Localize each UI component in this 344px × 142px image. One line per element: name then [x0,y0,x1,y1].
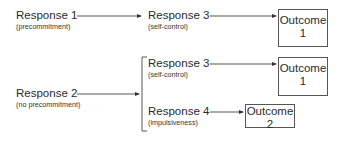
outcome-1-bottom-line2: 1 [279,75,327,88]
outcome-2-line1: Outcome [246,105,294,118]
outcome-1-bottom-line1: Outcome [279,62,327,75]
response-3-top-label: Response 3 [148,9,209,22]
outcome-1-top-line2: 1 [279,27,327,40]
node-response-2: Response 2 (no precommitment) [16,87,80,109]
response-2-sublabel: (no precommitment) [16,100,80,109]
response-3-bottom-label: Response 3 [148,57,209,70]
response-1-sublabel: (precommitment) [16,22,77,31]
node-response-4: Response 4 (impulsiveness) [148,105,209,127]
response-1-label: Response 1 [16,9,77,22]
node-response-1: Response 1 (precommitment) [16,9,77,31]
outcome-2-box: Outcome 2 [245,104,295,128]
outcome-1-top-box: Outcome 1 [278,9,328,47]
node-response-3-bottom: Response 3 (self-control) [148,57,209,79]
outcome-1-bottom-box: Outcome 1 [278,57,328,96]
response-2-label: Response 2 [16,87,80,100]
response-3-bottom-sublabel: (self-control) [148,70,209,79]
outcome-2-line2: 2 [246,118,294,131]
response-4-sublabel: (impulsiveness) [148,118,209,127]
response-4-label: Response 4 [148,105,209,118]
branch-bracket [142,57,147,131]
response-3-top-sublabel: (self-control) [148,22,209,31]
outcome-1-top-line1: Outcome [279,14,327,27]
node-response-3-top: Response 3 (self-control) [148,9,209,31]
